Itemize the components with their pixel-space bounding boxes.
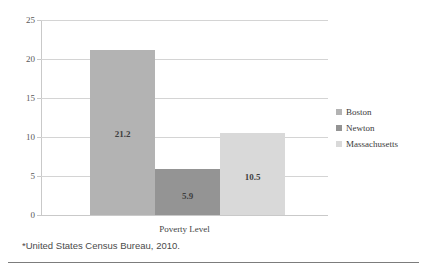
footnote-text: *United States Census Bureau, 2010.	[22, 240, 180, 251]
x-axis-line	[41, 215, 328, 216]
y-tick-mark	[37, 137, 41, 138]
bar-newton: 5.9	[155, 169, 220, 215]
gridline	[41, 98, 328, 99]
y-tick-label: 10	[26, 132, 35, 142]
y-tick-mark	[37, 176, 41, 177]
y-tick-mark	[37, 20, 41, 21]
y-tick-label: 25	[26, 15, 35, 25]
bar-value-label: 10.5	[220, 172, 285, 182]
gridline	[41, 20, 328, 21]
bar-value-label: 5.9	[155, 191, 220, 201]
gridline	[41, 59, 328, 60]
bar-massachusetts: 10.5	[220, 133, 285, 215]
bar-value-label: 21.2	[90, 129, 155, 139]
legend-swatch-icon	[336, 125, 342, 131]
legend-label: Newton	[346, 123, 375, 133]
bar-boston: 21.2	[90, 50, 155, 215]
legend-label: Boston	[346, 107, 372, 117]
y-tick-label: 0	[31, 210, 36, 220]
y-tick-label: 5	[31, 171, 36, 181]
legend-item-newton[interactable]: Newton	[336, 120, 424, 136]
y-tick-mark	[37, 215, 41, 216]
y-tick-label: 15	[26, 93, 35, 103]
y-tick-mark	[37, 59, 41, 60]
legend-label: Massachusetts	[346, 139, 398, 149]
y-tick-mark	[37, 98, 41, 99]
y-axis-line	[41, 20, 42, 215]
chart-figure: 0510152025 21.25.910.5 Poverty Level Bos…	[0, 0, 427, 275]
legend-swatch-icon	[336, 141, 342, 147]
x-axis-title: Poverty Level	[41, 224, 328, 234]
chart-legend: BostonNewtonMassachusetts	[336, 104, 424, 152]
y-tick-label: 20	[26, 54, 35, 64]
plot-area: 0510152025 21.25.910.5	[41, 20, 328, 215]
legend-swatch-icon	[336, 109, 342, 115]
legend-item-massachusetts[interactable]: Massachusetts	[336, 136, 424, 152]
legend-item-boston[interactable]: Boston	[336, 104, 424, 120]
bottom-divider	[8, 262, 419, 263]
